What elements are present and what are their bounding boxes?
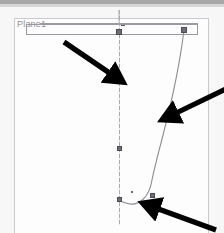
sketch-point-lower[interactable] [131,191,133,193]
sketch-viewport[interactable] [14,18,209,233]
origin-tick-icon [121,25,125,26]
handle-bottom-right[interactable] [150,193,155,198]
handle-bottom-left[interactable] [117,197,122,202]
vertical-centerline[interactable] [119,10,120,225]
construction-rectangle[interactable] [26,24,198,35]
handle-top-center[interactable] [116,29,122,35]
handle-mid-centerline[interactable] [117,146,122,151]
handle-top-right[interactable] [181,27,187,33]
cad-sketch-screenshot: Plane1 [0,0,224,233]
